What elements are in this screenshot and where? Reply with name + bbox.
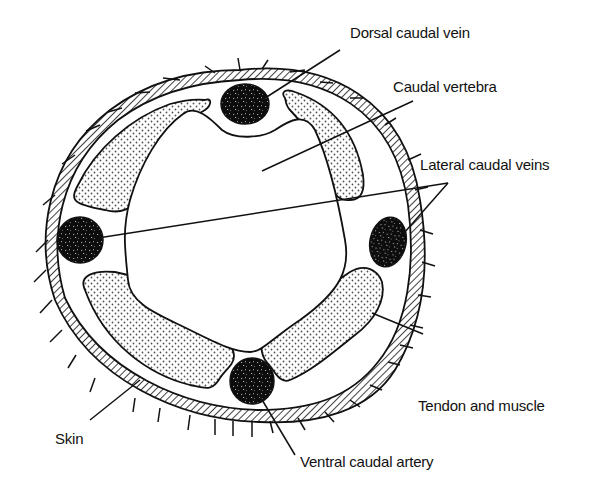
diagram-canvas: Dorsal caudal vein Caudal vertebra Later…: [0, 0, 606, 491]
ventral-caudal-artery: [230, 358, 274, 404]
label-ventral-caudal-artery: Ventral caudal artery: [300, 453, 433, 470]
label-lateral-caudal-veins: Lateral caudal veins: [420, 156, 549, 173]
label-dorsal-caudal-vein: Dorsal caudal vein: [350, 24, 470, 41]
dorsal-caudal-vein: [221, 84, 269, 124]
lateral-caudal-vein-left: [57, 217, 103, 263]
label-tendon-and-muscle: Tendon and muscle: [418, 397, 545, 414]
label-skin: Skin: [55, 430, 83, 447]
tail-cross-section-figure: [0, 0, 606, 491]
label-caudal-vertebra: Caudal vertebra: [393, 78, 497, 95]
leader-skin: [90, 380, 140, 420]
